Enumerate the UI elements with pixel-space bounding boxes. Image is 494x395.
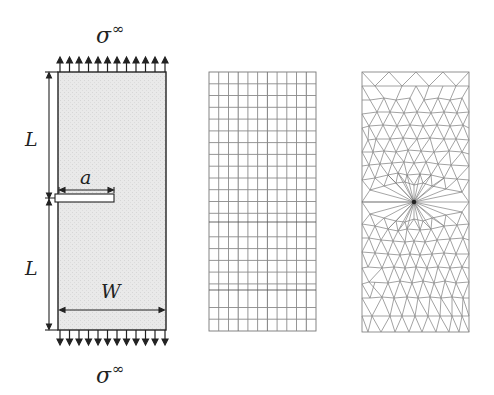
top-load-arrows: [57, 57, 168, 72]
quad-mesh-panel: [209, 72, 316, 331]
sigma-bottom-label: σ∞: [96, 362, 125, 387]
crack-tip-node: [412, 200, 416, 204]
sigma-top-infinity: ∞: [112, 20, 125, 38]
sigma-bottom-symbol: σ: [96, 363, 111, 388]
figure-canvas: [0, 0, 494, 395]
width-label: W: [101, 282, 121, 301]
sigma-bottom-infinity: ∞: [112, 360, 125, 378]
edge-crack: [45, 194, 114, 202]
sigma-top-symbol: σ: [96, 23, 111, 48]
bottom-load-arrows: [57, 330, 168, 345]
length-upper-label: L: [25, 130, 38, 149]
length-lower-label: L: [25, 259, 38, 278]
tri-mesh-panel: [362, 72, 469, 332]
crack-length-label: a: [80, 168, 91, 187]
quad-mesh-horizontals: [209, 84, 316, 319]
sigma-top-label: σ∞: [96, 22, 125, 47]
